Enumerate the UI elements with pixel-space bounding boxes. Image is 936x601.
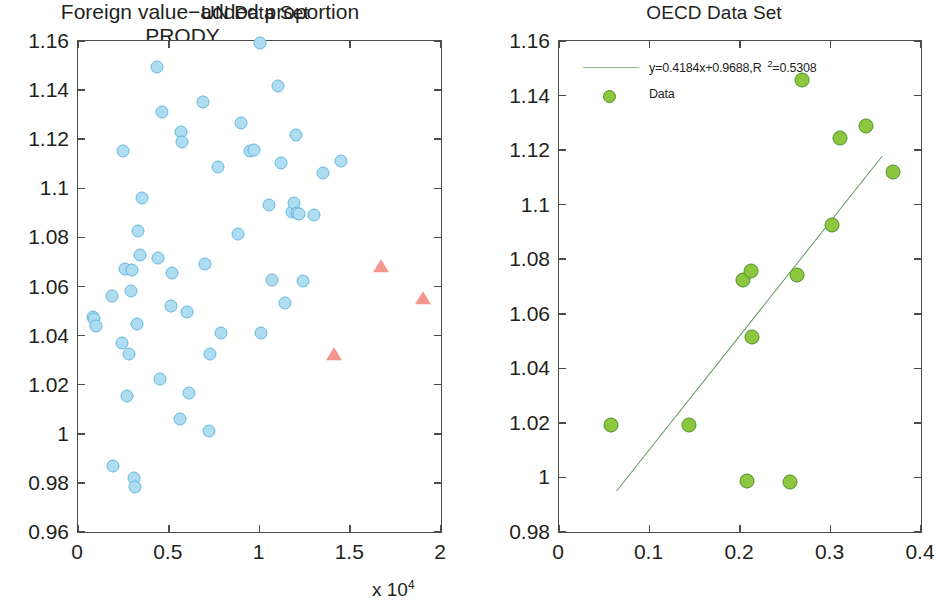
data-point-circle bbox=[122, 348, 135, 361]
data-point-circle bbox=[107, 460, 120, 473]
data-point-circle bbox=[135, 192, 148, 205]
x-axis-tick-label: 1 bbox=[253, 541, 265, 562]
data-point-circle bbox=[335, 154, 348, 167]
y-axis-tick-label: 1.12 bbox=[482, 139, 550, 160]
y-axis-tick bbox=[78, 482, 85, 484]
y-axis-tick bbox=[78, 89, 85, 91]
y-axis-tick-label: 1.14 bbox=[482, 84, 550, 105]
data-point-circle bbox=[253, 37, 266, 50]
data-point-circle bbox=[289, 128, 302, 141]
data-point-circle bbox=[150, 61, 163, 74]
data-point-circle bbox=[833, 130, 848, 145]
x-axis-tick-label: 1.5 bbox=[335, 541, 364, 562]
data-point-circle bbox=[248, 143, 261, 156]
data-point-circle bbox=[743, 264, 758, 279]
data-point-circle bbox=[173, 413, 186, 426]
y-axis-tick bbox=[914, 422, 921, 424]
data-point-circle bbox=[885, 164, 900, 179]
y-axis-tick bbox=[78, 433, 85, 435]
x-axis-exponent-prefix: x 10 bbox=[372, 579, 408, 600]
y-axis-tick-label: 1 bbox=[482, 466, 550, 487]
legend-fit-equation: y=0.4184x+0.9688,R bbox=[649, 61, 761, 75]
x-axis-exponent: x 104 bbox=[372, 578, 415, 601]
data-point-circle bbox=[151, 251, 164, 264]
data-point-circle bbox=[106, 290, 119, 303]
y-axis-tick-label: 1.14 bbox=[1, 79, 69, 100]
data-point-circle bbox=[156, 105, 169, 118]
y-axis-tick-label: 0.96 bbox=[1, 521, 69, 542]
y-axis-tick bbox=[559, 531, 566, 533]
legend-label-data: Data bbox=[649, 87, 675, 101]
legend-oecd: y=0.4184x+0.9688,R2=0.5308 Data bbox=[579, 55, 879, 111]
y-axis-tick bbox=[78, 335, 85, 337]
x-axis-tick bbox=[649, 41, 651, 48]
y-axis-tick bbox=[559, 204, 566, 206]
data-point-circle bbox=[682, 418, 697, 433]
x-axis-tick bbox=[739, 525, 741, 532]
y-axis-tick bbox=[434, 188, 441, 190]
data-point-circle bbox=[317, 167, 330, 180]
x-axis-tick-label: 0.2 bbox=[724, 541, 753, 562]
data-point-circle bbox=[202, 424, 215, 437]
data-point-circle bbox=[164, 300, 177, 313]
data-point-circle bbox=[275, 157, 288, 170]
x-axis-tick bbox=[168, 41, 170, 48]
data-point-circle bbox=[603, 418, 618, 433]
data-point-circle bbox=[180, 305, 193, 318]
plot-area-oecd: y=0.4184x+0.9688,R2=0.5308 Data bbox=[559, 41, 921, 532]
x-axis-tick bbox=[349, 41, 351, 48]
x-axis-tick bbox=[349, 525, 351, 532]
data-point-circle bbox=[794, 72, 809, 87]
y-axis-tick bbox=[914, 149, 921, 151]
plot-axes-oecd: y=0.4184x+0.9688,R2=0.5308 Data bbox=[558, 40, 922, 533]
data-point-circle bbox=[133, 248, 146, 261]
figure-root: UN Data Set η PRODY x 104 0.960.9811.021… bbox=[0, 0, 936, 601]
y-axis-tick bbox=[559, 422, 566, 424]
data-point-circle bbox=[130, 318, 143, 331]
legend-marker-swatch bbox=[603, 90, 616, 103]
data-point-circle bbox=[215, 327, 228, 340]
x-axis-tick bbox=[558, 41, 560, 48]
y-axis-tick bbox=[434, 138, 441, 140]
data-point-circle bbox=[121, 390, 134, 403]
y-axis-tick bbox=[914, 368, 921, 370]
y-axis-tick-label: 1 bbox=[1, 422, 69, 443]
y-axis-tick bbox=[559, 313, 566, 315]
data-point-circle bbox=[278, 297, 291, 310]
y-axis-tick bbox=[434, 384, 441, 386]
y-axis-tick bbox=[914, 477, 921, 479]
y-axis-tick-label: 1.02 bbox=[1, 373, 69, 394]
y-axis-tick bbox=[78, 384, 85, 386]
x-axis-exponent-power: 4 bbox=[408, 578, 415, 592]
y-axis-tick-label: 1.1 bbox=[482, 193, 550, 214]
data-point-circle bbox=[182, 387, 195, 400]
legend-fit-rsquared: =0.5308 bbox=[772, 61, 816, 75]
data-point-circle bbox=[266, 274, 279, 287]
y-axis-tick bbox=[559, 258, 566, 260]
legend-row-fit: y=0.4184x+0.9688,R2=0.5308 bbox=[579, 55, 879, 83]
y-axis-tick-label: 1.06 bbox=[1, 275, 69, 296]
data-point-circle bbox=[124, 284, 137, 297]
y-axis-tick-label: 1.1 bbox=[1, 177, 69, 198]
x-axis-tick bbox=[739, 41, 741, 48]
data-point-circle bbox=[211, 160, 224, 173]
data-point-circle bbox=[271, 79, 284, 92]
data-point-triangle bbox=[415, 291, 431, 304]
y-axis-tick bbox=[78, 237, 85, 239]
x-axis-tick bbox=[77, 525, 79, 532]
y-axis-tick bbox=[914, 313, 921, 315]
x-axis-tick-label: 2 bbox=[434, 541, 446, 562]
data-point-circle bbox=[176, 135, 189, 148]
data-point-triangle bbox=[326, 347, 342, 360]
data-point-circle bbox=[293, 208, 306, 221]
data-point-circle bbox=[790, 268, 805, 283]
y-axis-tick bbox=[914, 258, 921, 260]
regression-line bbox=[616, 155, 883, 491]
data-point-circle bbox=[197, 96, 210, 109]
x-axis-tick bbox=[649, 525, 651, 532]
y-axis-tick-label: 1.02 bbox=[482, 411, 550, 432]
x-axis-tick bbox=[440, 525, 442, 532]
data-point-circle bbox=[126, 263, 139, 276]
y-axis-tick bbox=[434, 482, 441, 484]
legend-line-swatch bbox=[583, 67, 639, 68]
